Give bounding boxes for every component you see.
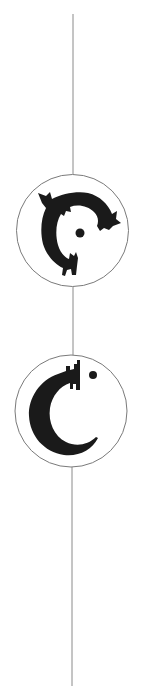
- medallion-dot-icon: [76, 229, 85, 238]
- medallion-c: [15, 355, 127, 467]
- figure-canvas: [0, 0, 144, 687]
- medallion-creature: [17, 175, 129, 287]
- medallion-dot-icon: [89, 371, 97, 379]
